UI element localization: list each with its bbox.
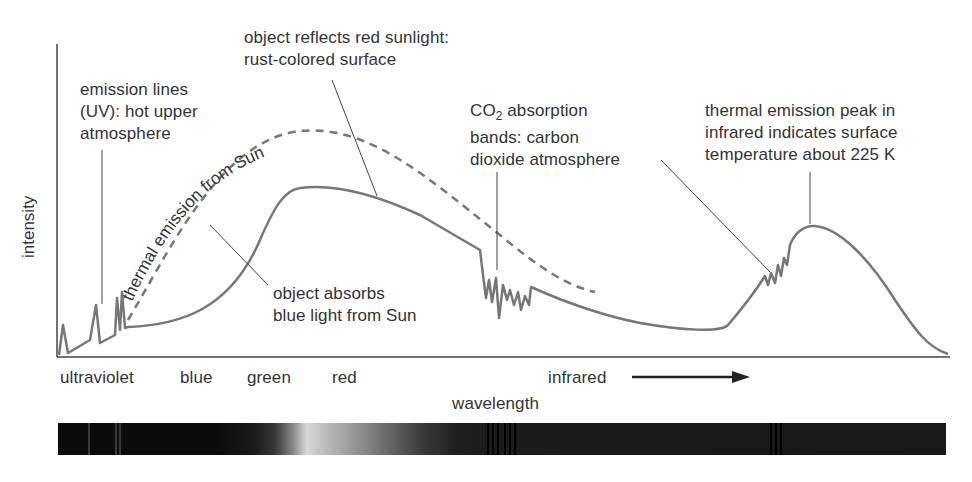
leader-reflects-red [332, 80, 377, 196]
annotation-reflects-red: object reflects red sunlight: rust-color… [244, 27, 449, 71]
annotation-line: atmosphere [80, 123, 198, 145]
annotation-line: object reflects red sunlight: [244, 27, 449, 49]
annotation-line: (UV): hot upper [80, 101, 198, 123]
absorption-line [509, 423, 511, 455]
band-label-blue: blue [180, 367, 213, 389]
arrow-right-icon [732, 371, 750, 383]
spectral-line [88, 423, 90, 455]
absorption-line [770, 423, 772, 455]
absorption-line [514, 423, 516, 455]
annotation-line: rust-colored surface [244, 49, 449, 71]
absorption-line [775, 423, 777, 455]
co2-prefix: CO [470, 101, 496, 120]
band-label-infrared: infrared [548, 367, 606, 389]
x-axis-label: wavelength [452, 393, 539, 415]
annotation-line: infrared indicates surface [705, 122, 898, 144]
annotation-line: thermal emission peak in [705, 100, 898, 122]
annotation-line: bands: carbon [470, 127, 620, 149]
band-label-green: green [247, 367, 291, 389]
absorption-line [504, 423, 506, 455]
thermal-sun-label: thermal emission from Sun [118, 143, 266, 304]
y-axis-label: intensity [19, 196, 39, 258]
annotation-line: object absorbs [273, 283, 417, 305]
absorption-line [492, 423, 494, 455]
annotation-line: emission lines [80, 79, 198, 101]
annotation-line: dioxide atmosphere [470, 149, 620, 171]
band-label-ultraviolet: ultraviolet [60, 367, 134, 389]
annotation-co2: CO2 absorption bands: carbon dioxide atm… [470, 100, 620, 171]
annotation-line: CO2 absorption [470, 100, 620, 127]
annotation-thermal-peak: thermal emission peak in infrared indica… [705, 100, 898, 166]
annotation-emission-lines: emission lines (UV): hot upper atmospher… [80, 79, 198, 145]
absorption-line [497, 423, 499, 455]
spectral-line [115, 423, 117, 455]
absorption-line [487, 423, 489, 455]
annotation-line: temperature about 225 K [705, 144, 898, 166]
absorption-line [780, 423, 782, 455]
annotation-line: blue light from Sun [273, 305, 417, 327]
band-label-red: red [332, 367, 357, 389]
spectrum-diagram: thermal emission from Sun intensity emis… [0, 0, 972, 482]
spectral-line [119, 423, 121, 455]
spectrum-strip [58, 423, 946, 455]
leader-co2-infrared [661, 160, 770, 272]
annotation-absorbs-blue: object absorbs blue light from Sun [273, 283, 417, 327]
co2-suffix: absorption [502, 101, 587, 120]
